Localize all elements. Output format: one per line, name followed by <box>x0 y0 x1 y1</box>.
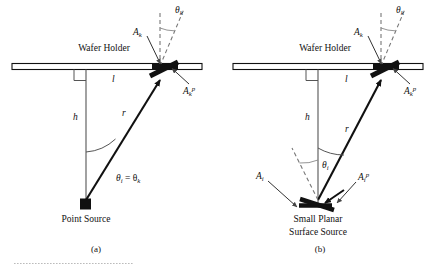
Ai-sub-b: i <box>262 175 264 182</box>
length-l-label-b: l <box>345 75 348 85</box>
theta-k-label-b: θk <box>396 6 404 17</box>
Ak-p-label-a: Akp <box>183 86 195 98</box>
point-source-label-a: Point Source <box>62 215 111 225</box>
length-l-label-a: l <box>112 75 115 85</box>
distance-r-label-b: r <box>345 125 349 135</box>
theta-i-sub-b: i <box>327 164 329 171</box>
angle-arc-theta-k-a <box>160 28 174 31</box>
Ak-p-sup-a: p <box>192 85 195 92</box>
theta-equality-label-a: θi = θk <box>116 174 140 185</box>
planar-source-label-line2-b: Surface Source <box>289 228 347 238</box>
theta-i-label-b: θi <box>322 161 329 172</box>
angle-arc-theta-i-b <box>318 148 344 155</box>
theta-k-sub-a: k <box>180 9 183 16</box>
source-incident-arrow-b <box>325 190 344 203</box>
height-h-label-a: h <box>73 113 78 123</box>
theta-k-sub-b: k <box>401 9 404 16</box>
panel-caption-b: (b) <box>315 245 326 254</box>
tilted-normal-dashed-b <box>381 9 405 66</box>
Ak-label-a: Ak <box>133 28 142 39</box>
leader-Ak-b <box>368 36 382 64</box>
Ak-sub-b: k <box>360 31 363 38</box>
figure-root: Wafer Holder l h r θk Ak Akp θi = θk Poi… <box>0 0 437 270</box>
Ai-p-label-b: Aip <box>358 172 369 184</box>
angle-arc-theta-i-a <box>86 139 116 152</box>
distance-r-label-a: r <box>122 109 126 119</box>
Ak-p-label-b: Akp <box>404 86 416 98</box>
Ak-sub-a: k <box>139 31 142 38</box>
point-source-marker-a <box>81 199 91 209</box>
wafer-holder-label-a: Wafer Holder <box>78 44 130 54</box>
leader-Ai-b <box>268 181 297 207</box>
ray-r-b <box>318 80 381 200</box>
right-angle-marker-a <box>74 70 86 81</box>
theta-k-sub2-a: k <box>137 177 140 184</box>
angle-arc-normal-b <box>300 160 319 163</box>
planar-source-label-line1-b: Small Planar <box>294 215 343 225</box>
right-angle-marker-b <box>306 70 318 81</box>
Ak-label-b: Ak <box>354 28 363 39</box>
wafer-holder-label-b: Wafer Holder <box>299 44 351 54</box>
leader-Ak-p-b <box>393 69 410 85</box>
panel-caption-a: (a) <box>91 245 101 254</box>
source-normal-dashed-b <box>292 148 318 200</box>
angle-arc-theta-k-b <box>381 28 395 31</box>
panel-a-graphics <box>12 9 202 209</box>
leader-Ak-p-a <box>172 69 189 85</box>
Ai-p-sup-b: p <box>366 171 369 178</box>
theta-k-label-a: θk <box>175 6 183 17</box>
height-h-label-b: h <box>305 113 310 123</box>
Ak-p-sup-b: p <box>413 85 416 92</box>
diagram-svg <box>0 0 437 270</box>
equality-sign-a: = θ <box>123 173 138 183</box>
tilted-normal-dashed-a <box>160 9 184 66</box>
leader-Ak-a <box>147 36 161 64</box>
Ai-label-b: Ai <box>256 172 264 183</box>
